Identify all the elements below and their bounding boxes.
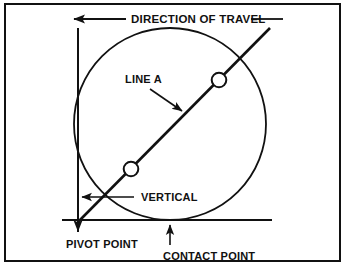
diagram-canvas: DIRECTION OF TRAVEL LINE A VERTICAL PIVO… (0, 0, 345, 266)
upper-marker-icon (212, 73, 227, 88)
vertical-label: VERTICAL (141, 191, 198, 203)
line-a-leader-arrow-icon (150, 89, 182, 111)
contact-point-label: CONTACT POINT (163, 250, 255, 262)
line-a-label: LINE A (125, 73, 162, 85)
pivot-point-label: PIVOT POINT (66, 238, 138, 250)
lower-marker-icon (124, 162, 139, 177)
figure-root: DIRECTION OF TRAVEL LINE A VERTICAL PIVO… (0, 0, 345, 266)
direction-of-travel-label: DIRECTION OF TRAVEL (131, 13, 266, 25)
